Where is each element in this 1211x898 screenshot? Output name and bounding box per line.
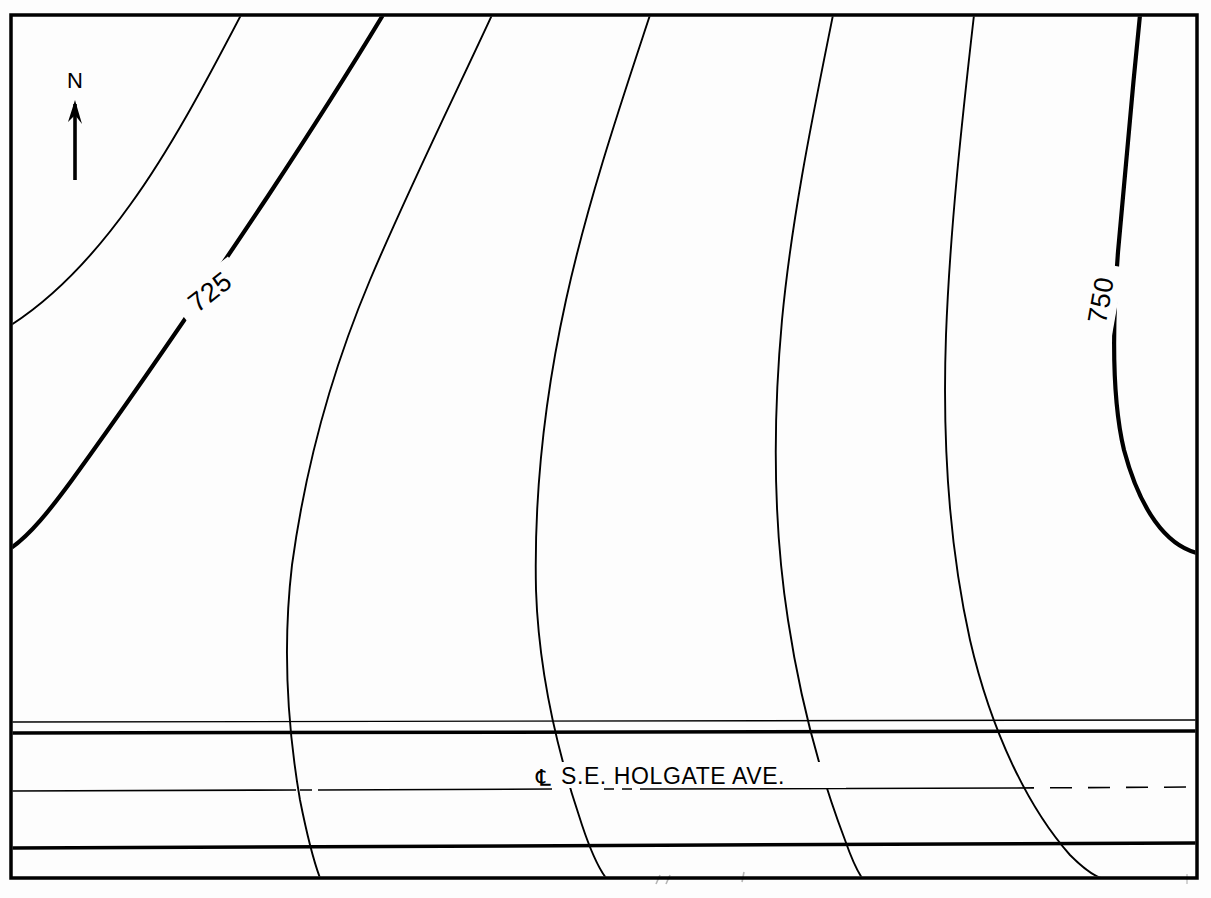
- contour-map-page: ℄ S.E. HOLGATE AVE. N 725750 S.E. HOLGAT…: [0, 0, 1211, 898]
- street-label-group: ℄ S.E. HOLGATE AVE.: [530, 762, 846, 791]
- contour-map-drawing: ℄ S.E. HOLGATE AVE. N 725750: [0, 0, 1211, 898]
- road-centerline-solid-mid: [318, 789, 552, 790]
- road-edge-north: [11, 731, 1197, 733]
- street-name-label: S.E. HOLGATE AVE.: [561, 763, 785, 789]
- centerline-symbol: ℄: [535, 766, 551, 791]
- north-arrow-label: N: [67, 68, 83, 93]
- road-centerline-solid-left: [11, 790, 296, 791]
